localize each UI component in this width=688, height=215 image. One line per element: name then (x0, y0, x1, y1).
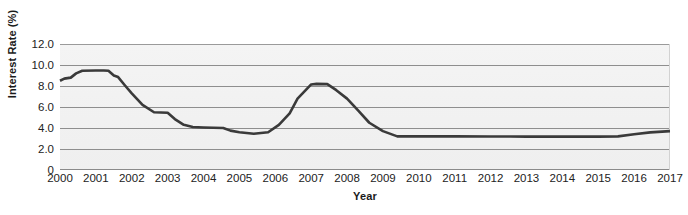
y-tick-label: 8.0 (8, 80, 54, 92)
x-axis-tick-labels: 2000200120022003200420052006200720082009… (60, 172, 670, 190)
x-tick-label: 2017 (645, 172, 688, 184)
line-chart-figure: Interest Rate (%) 02.04.06.08.010.012.0 … (0, 0, 688, 215)
x-axis-title: Year (60, 190, 670, 202)
y-tick-label: 6.0 (8, 101, 54, 113)
plot-area (60, 44, 670, 170)
y-tick-label: 2.0 (8, 143, 54, 155)
data-series-interest-rate (60, 44, 670, 170)
y-tick-label: 12.0 (8, 38, 54, 50)
y-tick-label: 10.0 (8, 59, 54, 71)
y-tick-label: 4.0 (8, 122, 54, 134)
series-line-path (60, 70, 670, 136)
